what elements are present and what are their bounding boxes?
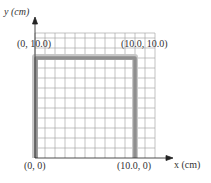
x-axis-arrow-icon bbox=[166, 156, 173, 161]
y-axis-label: y (cm) bbox=[4, 7, 29, 17]
x-axis-label: x (cm) bbox=[174, 160, 200, 170]
point-label-top-left: (0, 10.0) bbox=[17, 39, 51, 49]
point-label-bottom-right: (10.0, 0) bbox=[117, 161, 151, 171]
diagram-canvas bbox=[0, 0, 211, 183]
point-label-top-right: (10.0, 10.0) bbox=[121, 39, 168, 49]
point-label-origin: (0, 0) bbox=[24, 161, 46, 171]
y-axis-arrow-icon bbox=[33, 17, 38, 24]
